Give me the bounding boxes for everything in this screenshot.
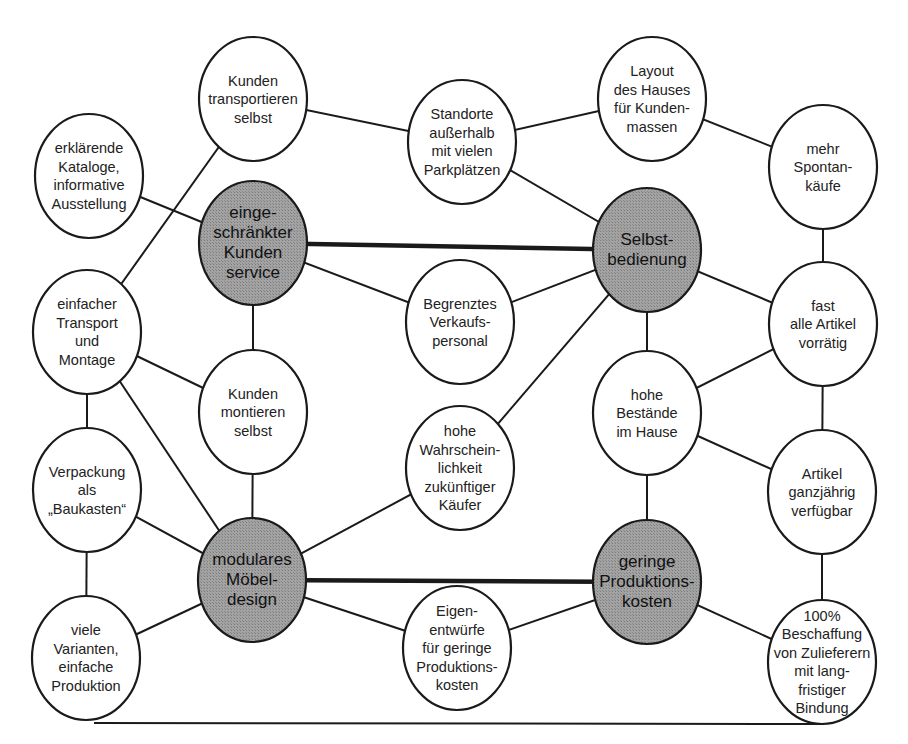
node-varianten: vieleVarianten,einfacheProduktion <box>32 596 140 720</box>
node-label-line: entwürfe <box>429 622 485 638</box>
node-label-line: des Hauses <box>614 82 691 98</box>
node-label-line: design <box>227 590 277 609</box>
node-label-line: Spontan- <box>794 159 853 175</box>
node-label-line: Parkplätzen <box>424 162 501 178</box>
node-label-line: Kunden <box>228 73 278 89</box>
node-kunden_transportieren: Kundentransportierenselbst <box>199 37 307 161</box>
node-label-line: mit vielen <box>431 143 492 159</box>
node-label-line: viele <box>71 622 101 638</box>
node-label-line: Möbel- <box>226 570 278 589</box>
edge-varianten-beschaffung <box>94 723 824 724</box>
node-label-line: schränkter <box>213 223 293 242</box>
node-label-line: transportieren <box>208 91 297 107</box>
node-label-line: bedienung <box>607 250 686 269</box>
node-label-line: vorrätig <box>799 335 847 351</box>
node-label-line: kosten <box>622 592 672 611</box>
node-ellipse-erklaerende_kataloge <box>35 114 143 238</box>
node-spontankaeufe: mehrSpontan-käufe <box>769 105 877 229</box>
node-label-line: Begrenztes <box>423 296 496 312</box>
node-label-line: informative <box>54 177 125 193</box>
node-label-line: personal <box>432 333 488 349</box>
node-moebeldesign: modularesMöbel-design <box>198 518 306 642</box>
node-label-line: Layout <box>630 63 674 79</box>
node-einfacher_transport: einfacherTransportundMontage <box>33 270 141 394</box>
node-standorte: Standorteaußerhalbmit vielenParkplätzen <box>408 80 516 204</box>
node-label-line: fast <box>811 298 834 314</box>
node-label-line: Selbst- <box>621 230 674 249</box>
node-label-line: von Zulieferern <box>774 645 871 661</box>
node-label-line: Verpackung <box>49 464 126 480</box>
edge-kundenservice-selbstbedienung <box>253 243 647 250</box>
node-label-line: Bindung <box>795 700 848 716</box>
node-label-line: selbst <box>234 423 272 439</box>
node-label-line: „Baukasten“ <box>48 501 126 517</box>
node-ellipse-layout <box>598 37 706 161</box>
node-selbstbedienung: Selbst-bedienung <box>593 188 701 312</box>
node-label-line: massen <box>627 119 678 135</box>
node-label-line: hohe <box>444 423 476 439</box>
node-label-line: Kunden <box>224 243 283 262</box>
node-ellipse-einfacher_transport <box>33 270 141 394</box>
node-label-line: einge- <box>229 203 276 222</box>
node-label-line: zukünftiger <box>425 479 496 495</box>
node-label-line: montieren <box>221 404 285 420</box>
node-label-line: Verkaufs- <box>429 314 490 330</box>
node-label-line: einfache <box>59 659 114 675</box>
node-label-line: Wahrschein- <box>420 442 501 458</box>
node-bestaende: hoheBeständeim Hause <box>593 351 701 475</box>
node-label-line: Produktions- <box>416 659 498 675</box>
node-label-line: käufe <box>805 178 840 194</box>
node-label-line: Kataloge, <box>58 159 119 175</box>
node-label-line: Transport <box>56 315 118 331</box>
node-label-line: modulares <box>212 550 291 569</box>
node-verkaufspersonal: BegrenztesVerkaufs-personal <box>406 260 514 384</box>
node-label-line: lichkeit <box>438 460 482 476</box>
node-label-line: als <box>78 482 97 498</box>
node-ellipse-standorte <box>408 80 516 204</box>
node-label-line: erklärende <box>55 140 124 156</box>
node-label-line: Produktion <box>51 678 120 694</box>
node-label-line: mehr <box>806 141 839 157</box>
node-label-line: geringe <box>619 552 676 571</box>
node-label-line: Ausstellung <box>52 196 127 212</box>
node-label-line: Bestände <box>616 405 677 421</box>
node-ganzjaehrig: Artikelganzjährigverfügbar <box>768 430 876 554</box>
node-label-line: 100% <box>803 608 840 624</box>
node-beschaffung: 100%Beschaffungvon Zulieferernmit lang-f… <box>768 600 876 724</box>
node-label-line: im Hause <box>616 424 677 440</box>
node-label-line: kosten <box>436 677 479 693</box>
edge-moebeldesign-produktionskosten <box>252 580 647 582</box>
node-label-line: fristiger <box>798 682 846 698</box>
node-eigenentwuerfe: Eigen-entwürfefür geringeProduktions-kos… <box>403 586 511 710</box>
node-label-line: service <box>226 263 280 282</box>
node-label-line: für Kunden- <box>614 100 690 116</box>
node-label-line: ganzjährig <box>789 484 856 500</box>
node-label-line: außerhalb <box>429 125 494 141</box>
node-label-line: für geringe <box>422 640 491 656</box>
node-label-line: Standorte <box>431 106 494 122</box>
node-label-line: Montage <box>59 352 115 368</box>
node-label-line: Kunden <box>228 386 278 402</box>
node-kunden_montieren: Kundenmontierenselbst <box>199 350 307 474</box>
node-label-line: Varianten, <box>53 641 118 657</box>
node-label-line: hohe <box>631 387 663 403</box>
node-label-line: und <box>75 333 99 349</box>
node-label-line: verfügbar <box>791 503 852 519</box>
node-wahrscheinlichkeit: hoheWahrschein-lichkeitzukünftigerKäufer <box>406 406 514 530</box>
node-ellipse-varianten <box>32 596 140 720</box>
node-label-line: selbst <box>234 110 272 126</box>
node-artikel_vorraetig: fastalle Artikelvorrätig <box>769 262 877 386</box>
nodes-layer: KundentransportierenselbsterklärendeKata… <box>32 37 877 724</box>
node-produktionskosten: geringeProduktions-kosten <box>593 520 701 644</box>
node-verpackung: Verpackungals„Baukasten“ <box>33 428 141 552</box>
node-label-line: Käufer <box>439 497 482 513</box>
node-label-line: Artikel <box>802 466 842 482</box>
node-label-line: Eigen- <box>436 603 478 619</box>
node-label-line: alle Artikel <box>790 316 856 332</box>
node-label-line: einfacher <box>57 296 117 312</box>
node-kundenservice: einge-schränkterKundenservice <box>199 181 307 305</box>
node-label-line: Beschaffung <box>782 626 862 642</box>
node-erklaerende_kataloge: erklärendeKataloge,informativeAusstellun… <box>35 114 143 238</box>
node-label-line: Produktions- <box>599 572 694 591</box>
concept-diagram: KundentransportierenselbsterklärendeKata… <box>0 0 908 744</box>
